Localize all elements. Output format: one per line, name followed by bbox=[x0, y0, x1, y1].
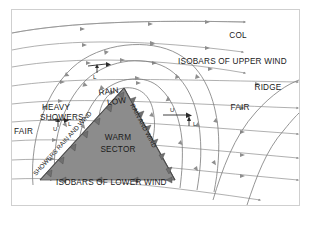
label-fair-left: FAIR bbox=[14, 127, 33, 136]
label-col: COL bbox=[229, 31, 247, 40]
label-isobars-upper-wind: ISOBARS OF UPPER WIND bbox=[178, 57, 287, 66]
label-ridge: RIDGE bbox=[255, 83, 282, 92]
label-isobars-lower-wind: ISOBARS OF LOWER WIND bbox=[56, 178, 167, 187]
vector-right-upper-label: U bbox=[170, 107, 174, 113]
label-sector: SECTOR bbox=[100, 145, 135, 154]
label-warm: WARM bbox=[105, 133, 131, 142]
vector-left-upper-label: U bbox=[53, 126, 57, 132]
synoptic-chart-svg: L U L U L COL ISOBARS OF U bbox=[0, 0, 311, 225]
label-heavy: HEAVY bbox=[42, 103, 70, 112]
weather-diagram-figure: L U L U L COL ISOBARS OF U bbox=[0, 0, 311, 225]
label-fair-right: FAIR bbox=[231, 103, 250, 112]
